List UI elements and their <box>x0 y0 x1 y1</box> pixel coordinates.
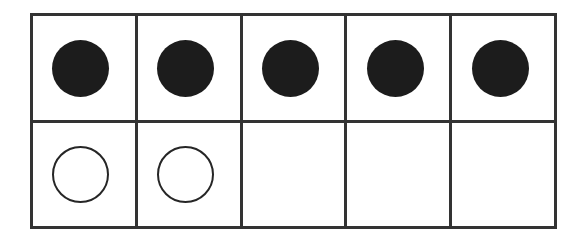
filled-counter[interactable] <box>262 40 319 97</box>
counter-grid <box>30 13 557 229</box>
grid-row-bottom <box>33 123 554 226</box>
filled-counter[interactable] <box>157 40 214 97</box>
counter-slot-r2c5 <box>471 146 529 204</box>
counter-slot-r2c1 <box>52 146 110 204</box>
figure-canvas <box>0 0 582 243</box>
grid-row-top <box>33 16 554 123</box>
counter-slot-r2c3 <box>261 146 319 204</box>
open-counter[interactable] <box>157 146 214 203</box>
grid-cell-r2c2[interactable] <box>138 123 243 226</box>
grid-cell-r1c2[interactable] <box>138 16 243 120</box>
counter-slot-r2c4 <box>366 146 424 204</box>
filled-counter[interactable] <box>472 40 529 97</box>
grid-cell-r2c1[interactable] <box>33 123 138 226</box>
counter-slot-r1c4 <box>366 39 424 97</box>
counter-slot-r1c1 <box>52 39 110 97</box>
counter-slot-r1c2 <box>157 39 215 97</box>
counter-slot-r1c3 <box>261 39 319 97</box>
grid-cell-r1c5[interactable] <box>452 16 554 120</box>
grid-cell-r1c4[interactable] <box>347 16 452 120</box>
grid-cell-r2c4[interactable] <box>347 123 452 226</box>
grid-cell-r2c5[interactable] <box>452 123 554 226</box>
grid-cell-r1c3[interactable] <box>243 16 348 120</box>
filled-counter[interactable] <box>52 40 109 97</box>
open-counter[interactable] <box>52 146 109 203</box>
filled-counter[interactable] <box>367 40 424 97</box>
counter-slot-r2c2 <box>157 146 215 204</box>
counter-slot-r1c5 <box>471 39 529 97</box>
grid-cell-r2c3[interactable] <box>243 123 348 226</box>
grid-cell-r1c1[interactable] <box>33 16 138 120</box>
